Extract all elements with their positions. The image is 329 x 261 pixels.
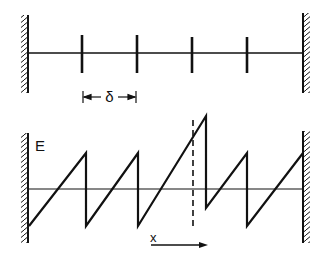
scatterer-ticks [82, 35, 247, 73]
left-wall-bottom [21, 133, 28, 243]
diagram-canvas: δ E x [0, 0, 329, 261]
bottom-diagram: E x [21, 116, 310, 248]
position-arrow [151, 242, 208, 248]
field-label: E [35, 137, 45, 154]
spacing-label: δ [105, 88, 113, 105]
sawtooth-field-curve [29, 116, 303, 226]
right-wall-top [303, 13, 310, 93]
right-wall-bottom [303, 131, 310, 243]
position-label: x [150, 230, 157, 245]
left-wall-top [21, 15, 28, 93]
top-diagram: δ [21, 13, 310, 105]
